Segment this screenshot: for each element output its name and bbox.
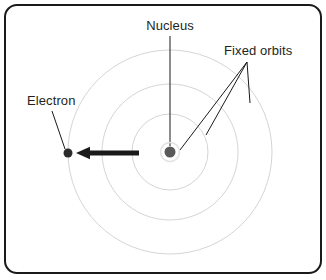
- electron-dot: [64, 149, 73, 158]
- diagram-background: [0, 0, 326, 280]
- diagram-canvas: Nucleus Fixed orbits Electron: [0, 0, 326, 280]
- label-electron: Electron: [27, 93, 76, 108]
- bohr-model-diagram: Nucleus Fixed orbits Electron: [0, 0, 326, 280]
- nucleus-dot: [165, 147, 176, 158]
- label-fixed-orbits: Fixed orbits: [224, 43, 293, 58]
- label-nucleus: Nucleus: [146, 18, 194, 33]
